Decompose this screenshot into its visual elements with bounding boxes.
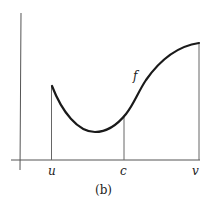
y-axis (20, 13, 21, 170)
x-label-v: v (192, 164, 199, 178)
x-label-c: c (120, 164, 127, 178)
x-label-u: u (48, 164, 56, 178)
function-curve (52, 43, 199, 132)
function-label: f (132, 69, 140, 83)
diagram-canvas: f u c v (b) (0, 0, 209, 204)
figure-caption: (b) (95, 183, 112, 197)
